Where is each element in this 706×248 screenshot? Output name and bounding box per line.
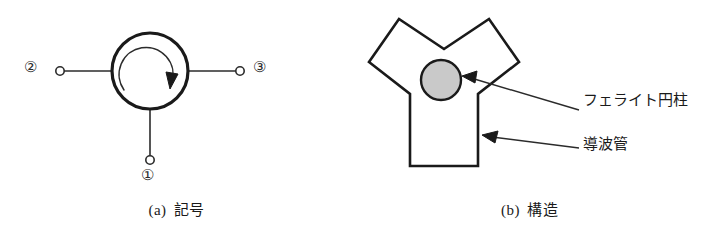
panel-symbol: ② ③ ① (a)記号 [0, 0, 353, 248]
caption-panel-b: (b)構造 [353, 198, 706, 219]
symbol-port-2-label: ② [24, 60, 37, 75]
caption-a-index: (a) [148, 202, 166, 218]
caption-panel-a: (a)記号 [0, 198, 353, 219]
port-3-terminal-circle [236, 67, 244, 75]
annotation-waveguide: 導波管 [583, 137, 628, 152]
port-2-terminal-circle [56, 67, 64, 75]
circulator-circle [112, 33, 188, 109]
caption-b-index: (b) [501, 202, 520, 218]
panel-structure: ② ③ ① (b)構造 [353, 0, 706, 248]
caption-b-text: 構造 [527, 202, 558, 218]
caption-a-text: 記号 [174, 202, 205, 218]
symbol-port-1-label: ① [141, 168, 154, 183]
waveguide-leader-line [492, 137, 579, 148]
ferrite-cylinder [421, 60, 461, 100]
annotation-ferrite-cylinder: フェライト円柱 [583, 93, 688, 108]
waveguide-leader-arrowhead [482, 131, 498, 143]
port-1-terminal-circle [146, 156, 154, 164]
figure-root: ② ③ ① (a)記号 ② ③ ① (b)構造 フェライト円柱 導波管 [0, 0, 706, 248]
ferrite-leader-line [471, 78, 579, 110]
symbol-port-3-label: ③ [253, 60, 266, 75]
